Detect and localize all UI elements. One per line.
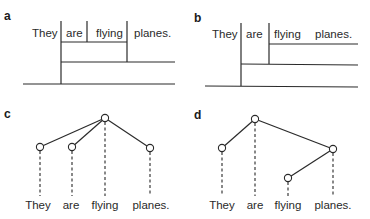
word-flying: flying — [274, 28, 301, 40]
panel-label-d: d — [194, 108, 201, 122]
diagram-canvas: a They are flying planes. b They are fly… — [0, 0, 370, 219]
word-are: are — [66, 27, 83, 39]
panel-label-a: a — [4, 9, 11, 23]
node-planes — [146, 144, 153, 151]
word-planes: planes. — [132, 199, 169, 211]
edge-flying-they — [40, 118, 105, 147]
word-they: They — [25, 199, 51, 211]
word-are: are — [247, 199, 264, 211]
word-flying: flying — [96, 27, 123, 39]
node-planes — [329, 145, 336, 152]
panel-label-b: b — [194, 11, 201, 25]
panel-a: a They are flying planes. — [4, 9, 175, 84]
word-flying: flying — [275, 199, 302, 211]
node-flying-root — [101, 114, 108, 121]
edge-are-planes — [255, 119, 333, 149]
word-flying: flying — [92, 199, 119, 211]
word-planes: planes. — [315, 28, 352, 40]
edge-planes-flying — [288, 149, 333, 178]
bracket-horizontal-2 — [241, 64, 358, 65]
node-they — [218, 144, 225, 151]
word-they: They — [212, 28, 238, 40]
word-they: They — [32, 27, 58, 39]
word-they: They — [209, 199, 235, 211]
bracket-horizontal-3 — [205, 86, 358, 87]
node-are-root — [251, 115, 258, 122]
panel-c: c They are flying planes. — [4, 107, 170, 211]
panel-b: b They are flying planes. — [194, 11, 358, 87]
edge-flying-are — [72, 118, 105, 147]
edge-flying-planes — [105, 118, 150, 148]
node-flying — [284, 174, 291, 181]
node-they — [36, 143, 43, 150]
edge-are-they — [222, 119, 255, 148]
panel-d: d They are flying planes. — [194, 108, 352, 211]
word-are: are — [63, 199, 80, 211]
panel-label-c: c — [4, 107, 11, 121]
word-are: are — [246, 28, 263, 40]
node-are — [68, 143, 75, 150]
word-planes: planes. — [314, 199, 351, 211]
word-planes: planes. — [134, 27, 171, 39]
